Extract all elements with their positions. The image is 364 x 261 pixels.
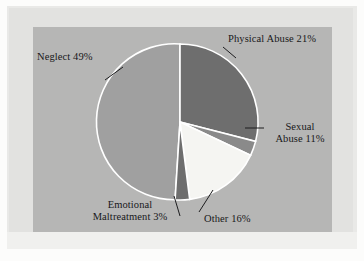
pie-slice-neglect[interactable] xyxy=(96,44,180,200)
pie-label-physical-abuse-text: Physical Abuse 21% xyxy=(228,33,316,44)
pie-label-emotional-maltreatment-line2: Maltreatment 3% xyxy=(84,211,176,223)
pie-label-sexual-abuse-line2: Abuse 11% xyxy=(268,133,332,145)
leader-line-physical-abuse xyxy=(223,47,236,58)
pie-label-physical-abuse: Physical Abuse 21% xyxy=(228,33,316,45)
pie-label-other-text: Other 16% xyxy=(204,213,251,224)
pie-label-sexual-abuse: Sexual Abuse 11% xyxy=(268,121,332,146)
pie-label-emotional-maltreatment: Emotional Maltreatment 3% xyxy=(84,199,176,224)
pie-label-sexual-abuse-line1: Sexual xyxy=(268,121,332,133)
pie-label-other: Other 16% xyxy=(204,213,251,225)
pie-label-emotional-maltreatment-line1: Emotional xyxy=(84,199,176,211)
pie-chart-screenshot: Physical Abuse 21% Sexual Abuse 11% Negl… xyxy=(0,0,364,261)
pie-label-neglect: Neglect 49% xyxy=(37,51,93,63)
pie-label-neglect-text: Neglect 49% xyxy=(37,51,93,62)
